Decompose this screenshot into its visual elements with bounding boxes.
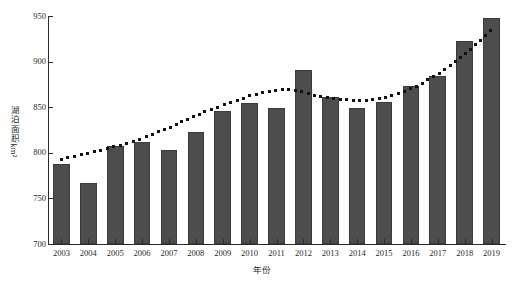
x-axis-tick-labels: 2003200420052006200720082009201020112012… xyxy=(0,248,524,262)
y-axis-tick-mark xyxy=(48,107,53,108)
y-axis-tick-mark xyxy=(48,244,53,245)
x-axis-tick-mark xyxy=(303,239,304,244)
bar xyxy=(241,103,258,244)
x-axis-tick-mark xyxy=(357,239,358,244)
x-axis-tick-mark xyxy=(142,239,143,244)
bar xyxy=(80,183,97,244)
x-axis-tick-mark xyxy=(169,239,170,244)
y-axis-tick-label: 850 xyxy=(20,103,46,112)
y-axis-tick-mark xyxy=(48,62,53,63)
x-axis-tick-mark xyxy=(492,239,493,244)
x-axis-tick-mark xyxy=(61,239,62,244)
y-axis-tick-label: 800 xyxy=(20,148,46,157)
bar xyxy=(214,111,231,244)
bar xyxy=(161,150,178,244)
bar-series xyxy=(48,16,505,244)
x-axis-tick-mark xyxy=(250,239,251,244)
x-axis-tick-mark xyxy=(277,239,278,244)
bar xyxy=(188,132,205,244)
bar xyxy=(403,86,420,244)
x-axis-line xyxy=(48,244,506,245)
bar xyxy=(376,102,393,244)
x-axis-tick-mark xyxy=(465,239,466,244)
bar xyxy=(295,70,312,244)
x-axis-tick-mark xyxy=(115,239,116,244)
bar xyxy=(107,146,124,244)
bar xyxy=(483,18,500,244)
y-axis-tick-label: 900 xyxy=(20,57,46,66)
x-axis-title-text: 年份 xyxy=(253,263,271,275)
bar xyxy=(456,41,473,244)
x-axis-tick-mark xyxy=(438,239,439,244)
x-axis-tick-label: 2019 xyxy=(475,248,509,259)
bar xyxy=(349,108,366,244)
x-axis-tick-mark xyxy=(223,239,224,244)
chart-figure: 湖泊面积/km² 700750800850900950 200320042005… xyxy=(0,0,524,289)
bar xyxy=(322,97,339,244)
y-axis-tick-mark xyxy=(48,16,53,17)
bar xyxy=(268,108,285,244)
bar xyxy=(134,142,151,244)
bar xyxy=(429,76,446,244)
y-axis-tick-label: 750 xyxy=(20,194,46,203)
x-axis-tick-mark xyxy=(196,239,197,244)
y-axis-tick-labels: 700750800850900950 xyxy=(16,0,46,289)
x-axis-tick-mark xyxy=(330,239,331,244)
bar xyxy=(53,164,70,244)
y-axis-tick-mark xyxy=(48,198,53,199)
y-axis-tick-mark xyxy=(48,153,53,154)
x-axis-title: 年份 xyxy=(0,263,524,275)
x-axis-tick-mark xyxy=(411,239,412,244)
y-axis-tick-label: 950 xyxy=(20,12,46,21)
x-axis-tick-mark xyxy=(384,239,385,244)
x-axis-tick-mark xyxy=(88,239,89,244)
